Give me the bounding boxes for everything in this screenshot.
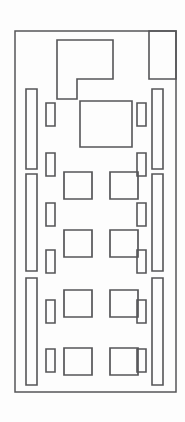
center-main-rectangle [80,101,132,147]
notched-polygon [57,40,113,99]
unit-square-r3-left [64,290,92,317]
unit-square-r1-left [64,172,92,199]
drawing-canvas [0,0,185,422]
left-bar-group [26,89,37,385]
left-bar-upper [26,89,37,169]
right-bar-lower [152,278,163,385]
left-bar-lower [26,278,37,385]
right-bar-upper [152,89,163,169]
left-slot-3 [46,203,55,226]
unit-square-r3-right [110,290,138,317]
left-slot-5 [46,300,55,323]
left-slot-4 [46,250,55,273]
right-slot-3 [137,203,146,226]
unit-square-r2-left [64,230,92,257]
unit-square-r4-left [64,348,92,375]
right-slot-1 [137,103,146,126]
unit-square-r2-right [110,230,138,257]
right-bar-group [152,89,163,385]
right-bar-middle [152,174,163,271]
left-slot-6 [46,349,55,372]
unit-square-r4-right [110,348,138,375]
unit-square-r1-right [110,172,138,199]
left-slot-2 [46,153,55,176]
left-bar-middle [26,174,37,271]
unit-square-group [64,172,138,375]
left-slot-group [46,103,55,372]
left-slot-1 [46,103,55,126]
schematic-diagram [0,0,185,422]
top-right-rectangle [149,31,176,79]
